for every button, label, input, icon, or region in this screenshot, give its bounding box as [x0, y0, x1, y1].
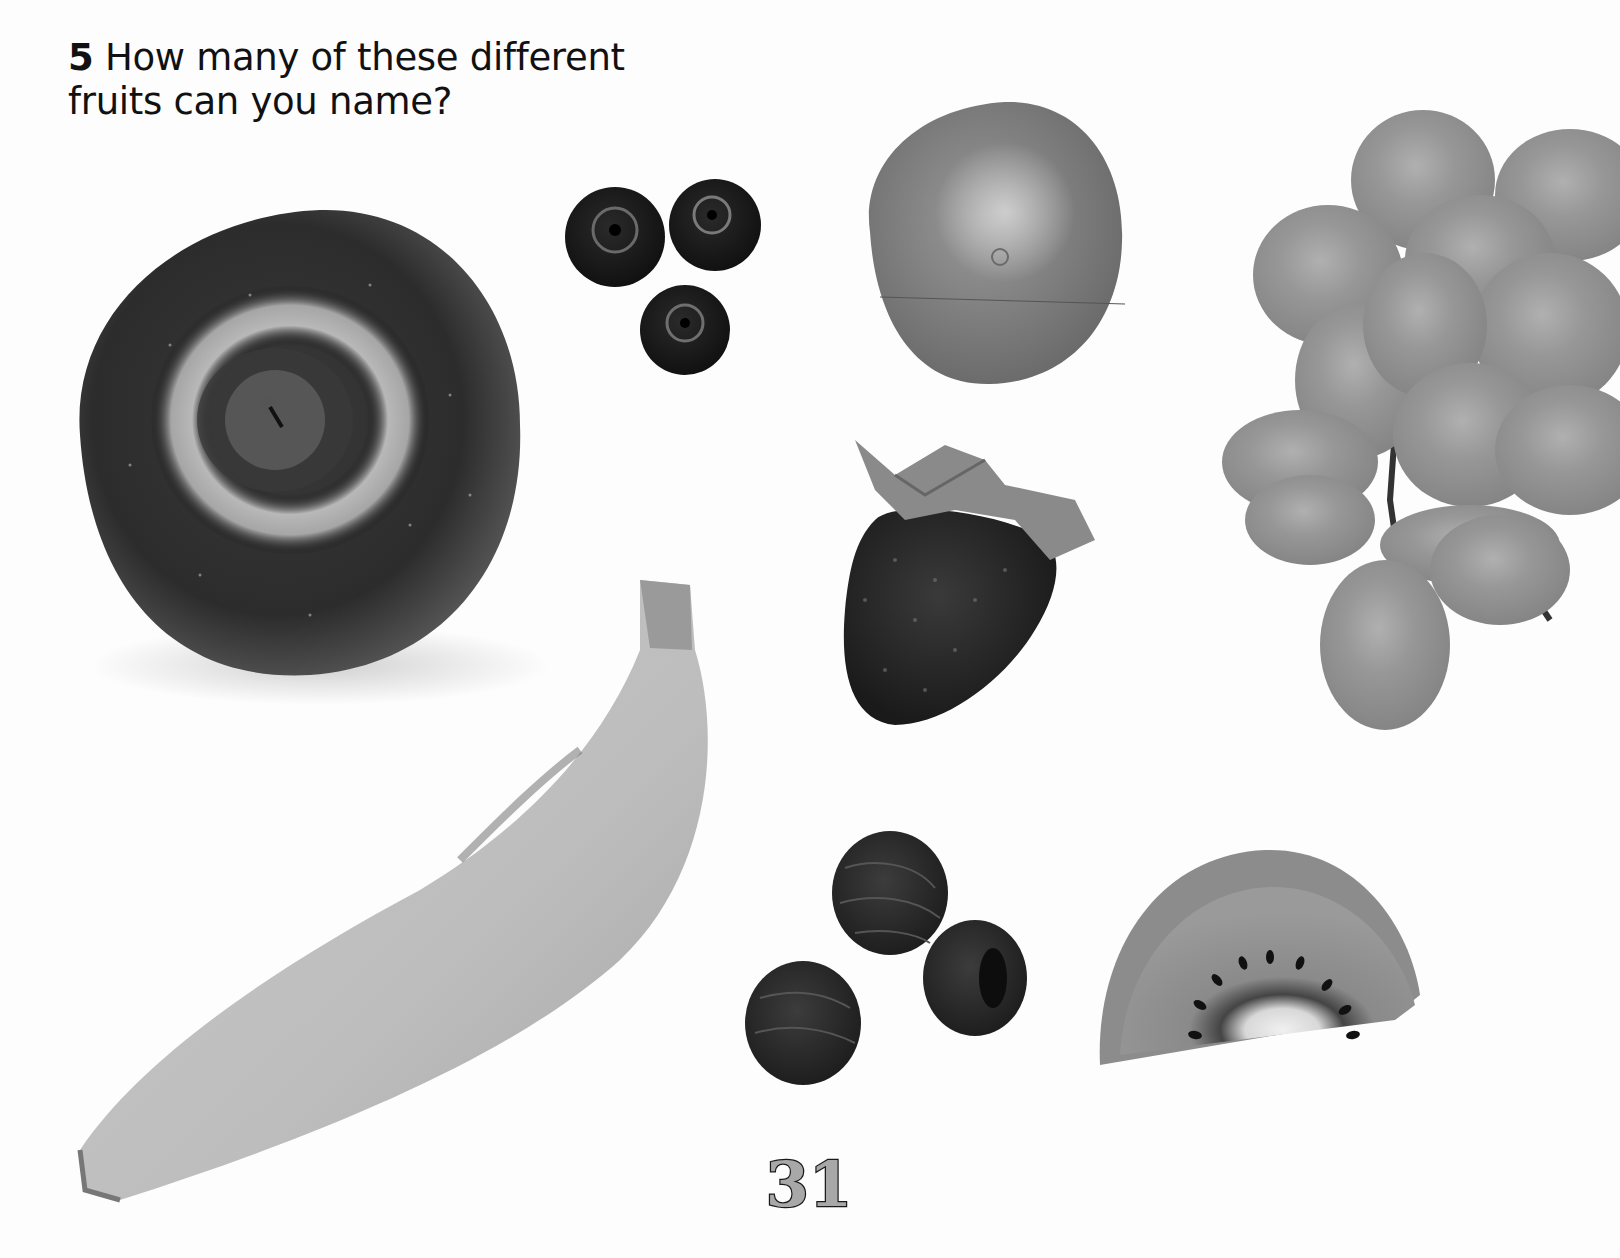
raspberry-3 [745, 961, 861, 1085]
raspberries-image: Raspberries [745, 828, 1025, 1088]
grapes-image: Grapes [1180, 100, 1620, 760]
blueberry-2 [669, 179, 761, 271]
question-line-1: 5 How many of these different [68, 36, 625, 80]
kiwi-image: Kiwi fruit [1095, 835, 1425, 1065]
page-number-text: 31 [766, 1148, 852, 1218]
question-number: 5 [68, 36, 93, 79]
blueberry-1 [565, 187, 665, 287]
raspberry-2 [923, 920, 1027, 1036]
strawberry-image: Strawberry [835, 440, 1135, 740]
orange-image: Orange [840, 92, 1140, 392]
question-line-2: fruits can you name? [68, 80, 625, 124]
blueberries-image: Blueberries [560, 175, 770, 380]
question-line-1-text: How many of these different [105, 36, 625, 79]
question-text: 5 How many of these different fruits can… [68, 36, 625, 124]
book-page: 5 How many of these different fruits can… [0, 0, 1620, 1258]
raspberry-1 [832, 831, 948, 955]
page-number: 31 [764, 1148, 854, 1218]
blueberry-3 [640, 285, 730, 375]
banana-image: Banana [40, 570, 720, 1210]
